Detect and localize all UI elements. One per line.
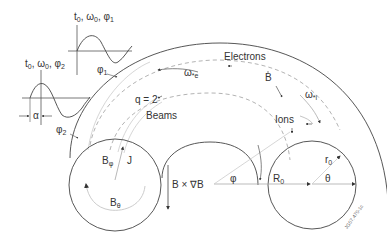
- B-theta-label: Bθ: [110, 197, 121, 209]
- right-cross-section: [268, 141, 356, 229]
- left-cross-section: [69, 139, 161, 231]
- BxgradB-label: B × ∇B: [172, 179, 204, 190]
- electrons-label: Electrons: [224, 51, 266, 62]
- electron-path-dashed: [90, 60, 340, 145]
- phi-label: φ: [230, 173, 237, 184]
- phi-arc-arrow: [258, 145, 261, 180]
- J-label: J: [127, 155, 132, 166]
- ions-curve: [300, 116, 313, 124]
- outer-light-arc: [88, 62, 150, 150]
- B-field-arrow: [276, 86, 282, 97]
- waveform-upper-curve: [77, 36, 132, 63]
- waveform-lower-label: t0, ω0, φ2: [25, 58, 65, 70]
- outer-boundary-arc: [70, 43, 387, 200]
- R0-label: R0: [273, 173, 284, 185]
- waveform-lower: t0, ω0, φ2 α: [19, 58, 90, 125]
- J-arrow: [115, 147, 123, 180]
- beams-light-arc-1: [118, 97, 158, 152]
- phi1-label: φ1: [97, 64, 107, 76]
- waveform-upper-label: t0, ω0, φ1: [74, 11, 114, 23]
- omega-i-label: ω*i: [305, 89, 318, 101]
- waveform-lower-curve: [30, 84, 90, 118]
- omega-e-label: ω*e: [184, 67, 199, 79]
- alpha-label: α: [33, 110, 39, 121]
- phi2-pointer: [70, 134, 78, 138]
- tokamak-diagram: t0, ω0, φ1 t0, ω0, φ2 α: [0, 0, 387, 240]
- B-phi-label: Bφ: [102, 155, 114, 168]
- ions-label: Ions: [275, 114, 294, 125]
- r0-label: r0: [325, 154, 332, 166]
- B-vector-label: B: [265, 72, 272, 83]
- beams-label: Beams: [146, 110, 177, 121]
- q2-arrow: [158, 96, 162, 98]
- figure-id-watermark: JG07.470-1c: [343, 203, 365, 230]
- theta-label: θ: [325, 173, 331, 184]
- q2-label: q = 2: [135, 94, 158, 105]
- phi2-label: φ2: [56, 124, 66, 136]
